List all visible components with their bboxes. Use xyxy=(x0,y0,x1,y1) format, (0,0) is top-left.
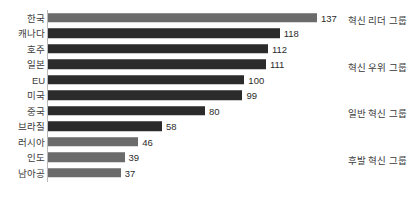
category-label: 러시아 xyxy=(18,135,45,149)
bar-row: 호주112 xyxy=(0,41,419,57)
bar-value-label: 58 xyxy=(166,121,177,132)
bar xyxy=(48,137,138,147)
category-label: EU xyxy=(32,74,45,85)
category-label: 일본 xyxy=(27,57,45,71)
bar-value-label: 111 xyxy=(270,59,284,70)
bar-row: 미국99 xyxy=(0,88,419,104)
bar xyxy=(48,44,268,54)
category-label: 남아공 xyxy=(18,166,45,180)
bar xyxy=(48,106,205,116)
category-label: 호주 xyxy=(27,42,45,56)
bar-value-label: 99 xyxy=(246,90,257,101)
bar-row: 브라질58 xyxy=(0,119,419,135)
bar-row: 캐나다118 xyxy=(0,26,419,42)
bar xyxy=(48,13,317,23)
bar-value-label: 100 xyxy=(248,74,264,85)
bar xyxy=(48,60,266,70)
bar-value-label: 137 xyxy=(321,12,337,23)
bar xyxy=(48,29,280,39)
bar-row: 러시아46 xyxy=(0,134,419,150)
group-annotation-label: 혁신 우위 그룹 xyxy=(348,60,406,74)
bar xyxy=(48,91,242,101)
bar-row: EU100 xyxy=(0,72,419,88)
category-label: 인도 xyxy=(27,150,45,164)
bar xyxy=(48,75,244,85)
bar-chart: 한국137캐나다118호주112일본111EU100미국99중국80브라질58러… xyxy=(0,0,419,197)
bar-value-label: 46 xyxy=(142,136,153,147)
category-label: 중국 xyxy=(27,104,45,118)
group-annotation-label: 후발 혁신 그룹 xyxy=(348,153,406,167)
bar xyxy=(48,122,162,132)
bar-value-label: 118 xyxy=(284,28,299,39)
group-annotation-label: 일반 혁신 그룹 xyxy=(348,106,406,120)
category-label: 캐나다 xyxy=(18,26,45,40)
plot-area: 한국137캐나다118호주112일본111EU100미국99중국80브라질58러… xyxy=(0,0,419,197)
category-label: 미국 xyxy=(27,88,45,102)
bar-value-label: 80 xyxy=(209,105,220,116)
group-annotation-label: 혁신 리더 그룹 xyxy=(348,13,406,27)
bar xyxy=(48,153,125,163)
bar xyxy=(48,168,121,178)
bar-row: 남아공37 xyxy=(0,165,419,181)
bar-value-label: 112 xyxy=(272,43,287,54)
bar-value-label: 37 xyxy=(125,167,136,178)
category-label: 브라질 xyxy=(18,119,45,133)
bar-value-label: 39 xyxy=(129,152,140,163)
category-label: 한국 xyxy=(27,11,45,25)
